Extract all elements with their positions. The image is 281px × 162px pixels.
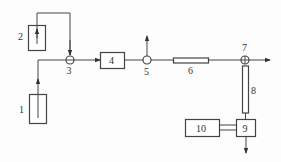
process-flow-diagram: 1 2 3 4 5 6 7: [0, 0, 281, 162]
label-7: 7: [242, 42, 247, 53]
component-10: 10: [186, 120, 237, 137]
junction-3: 3: [38, 56, 100, 76]
component-4: 4: [101, 53, 144, 69]
label-8: 8: [251, 85, 256, 96]
label-6: 6: [188, 65, 193, 76]
component-1: 1: [19, 60, 47, 124]
label-2: 2: [18, 31, 23, 42]
component-9: 9: [237, 120, 256, 154]
component-2: 2: [18, 13, 70, 55]
component-8: 8: [243, 66, 257, 119]
label-1: 1: [19, 104, 24, 115]
label-5: 5: [144, 66, 149, 77]
label-9: 9: [243, 123, 248, 134]
component-6: 6: [174, 58, 242, 76]
junction-5: 5: [143, 36, 173, 77]
label-3: 3: [67, 65, 72, 76]
junction-7: 7: [241, 42, 270, 64]
label-10: 10: [196, 123, 206, 134]
label-4: 4: [109, 55, 114, 66]
